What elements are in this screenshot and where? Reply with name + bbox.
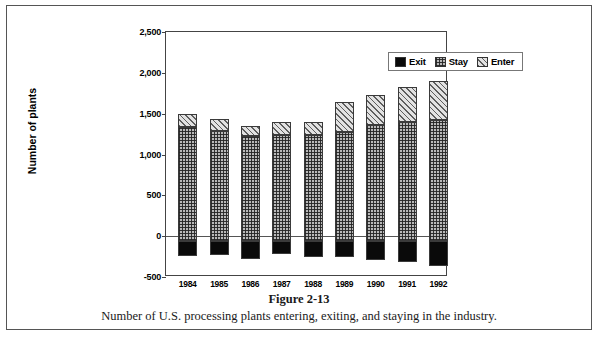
bar-segment-stay [272, 135, 291, 241]
bar-segment-exit [241, 241, 260, 259]
bar-segment-enter [366, 95, 385, 126]
bar-segment-stay [210, 131, 229, 241]
y-axis-label: Number of plants [25, 6, 39, 256]
bar-series-container: 198419851986198719881989199019911992 [172, 37, 446, 275]
legend-label: Exit [409, 56, 426, 67]
bar-segment-stay [241, 136, 260, 241]
bar-column[interactable] [241, 37, 260, 282]
bar-segment-enter [210, 119, 229, 131]
figure-caption: Figure 2-13 Number of U.S. processing pl… [7, 292, 591, 324]
legend-item[interactable]: Stay [435, 56, 468, 67]
bar-column[interactable] [272, 37, 291, 282]
bar-segment-enter [335, 102, 354, 132]
bar-segment-stay [335, 132, 354, 241]
y-axis-tick-mark [162, 155, 166, 156]
bar-column[interactable] [335, 37, 354, 282]
x-axis-tick-label: 1986 [241, 279, 259, 289]
bar-column[interactable] [210, 37, 229, 282]
x-axis-tick-label: 1988 [304, 279, 322, 289]
x-axis-tick-label: 1990 [367, 279, 385, 289]
bar-segment-stay [429, 120, 448, 241]
x-axis-tick-label: 1984 [179, 279, 197, 289]
figure-number: Figure 2-13 [7, 292, 591, 307]
bar-segment-exit [366, 241, 385, 260]
bar-segment-stay [178, 127, 197, 241]
bar-segment-exit [210, 241, 229, 255]
legend-swatch-stay [435, 57, 446, 67]
figure-caption-text: Number of U.S. processing plants enterin… [7, 309, 591, 324]
bar-segment-enter [398, 87, 417, 122]
y-axis-tick-mark [162, 114, 166, 115]
y-axis-tick-mark [162, 32, 166, 33]
y-axis-tick-mark [162, 73, 166, 74]
x-axis-tick-label: 1985 [210, 279, 228, 289]
legend-item[interactable]: Exit [395, 56, 426, 67]
bar-segment-enter [241, 126, 260, 136]
chart-legend: ExitStayEnter [388, 52, 523, 71]
bar-segment-stay [366, 125, 385, 241]
bar-segment-exit [335, 241, 354, 257]
bar-segment-exit [178, 241, 197, 256]
x-axis-tick-label: 1989 [335, 279, 353, 289]
bar-column[interactable] [398, 37, 417, 282]
bar-segment-stay [304, 135, 323, 241]
legend-swatch-enter [477, 57, 488, 67]
bar-segment-exit [272, 241, 291, 254]
x-axis-tick-label: 1991 [398, 279, 416, 289]
legend-label: Stay [449, 56, 468, 67]
bar-segment-enter [272, 122, 291, 135]
bar-segment-exit [429, 241, 448, 266]
bar-column[interactable] [178, 37, 197, 282]
legend-item[interactable]: Enter [477, 56, 514, 67]
x-axis-tick-label: 1987 [273, 279, 291, 289]
chart-plot-area: -50005001,0001,5002,0002,500 19841985198… [159, 26, 447, 276]
y-axis-label-text: Number of plants [26, 88, 38, 174]
x-axis-tick-label: 1992 [429, 279, 447, 289]
legend-swatch-exit [395, 57, 406, 67]
bar-column[interactable] [366, 37, 385, 282]
y-axis-tick-mark [162, 277, 166, 278]
figure-frame: Number of plants -50005001,0001,5002,000… [6, 5, 592, 330]
bar-column[interactable] [429, 37, 448, 282]
bar-segment-enter [429, 81, 448, 120]
legend-label: Enter [491, 56, 514, 67]
bar-column[interactable] [304, 37, 323, 282]
bar-segment-exit [304, 241, 323, 257]
bar-segment-enter [304, 122, 323, 135]
bar-segment-exit [398, 241, 417, 261]
bar-segment-stay [398, 122, 417, 242]
bar-segment-enter [178, 114, 197, 127]
y-axis-tick-mark [162, 195, 166, 196]
